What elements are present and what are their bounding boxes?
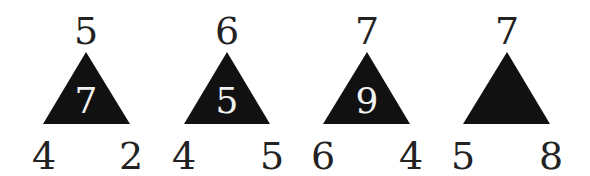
triangle-4-left-number: 5 — [451, 137, 475, 175]
triangle-1-left-number: 4 — [32, 137, 56, 175]
triangle-3-top-number: 7 — [355, 12, 379, 50]
triangle-3-left-number: 6 — [311, 137, 335, 175]
triangle-2-top-number: 6 — [215, 12, 239, 50]
triangle-4-top-number: 7 — [495, 12, 519, 50]
triangle-1-right-number: 2 — [119, 137, 143, 175]
triangle-2-right-number: 5 — [260, 137, 284, 175]
triangle-2-left-number: 4 — [172, 137, 196, 175]
number-triangle-puzzle: 5 4 2 7 6 4 5 5 7 6 4 9 7 5 8 — [0, 0, 590, 176]
triangle-2-center-number: 5 — [216, 82, 239, 120]
triangle-4 — [463, 52, 550, 124]
triangle-4-right-number: 8 — [539, 137, 563, 175]
triangle-1-top-number: 5 — [74, 12, 98, 50]
triangle-1-center-number: 7 — [75, 82, 98, 120]
triangle-3-center-number: 9 — [356, 82, 379, 120]
triangle-3-right-number: 4 — [399, 137, 423, 175]
